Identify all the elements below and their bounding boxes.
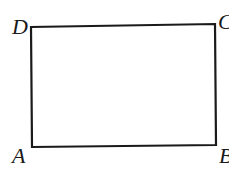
vertex-label-b: B xyxy=(219,143,229,168)
rectangle-abcd xyxy=(31,24,216,147)
vertex-label-d: D xyxy=(11,14,28,39)
vertex-label-a: A xyxy=(10,143,26,168)
vertex-label-c: C xyxy=(218,9,229,34)
rectangle-diagram: A B C D xyxy=(0,0,229,187)
